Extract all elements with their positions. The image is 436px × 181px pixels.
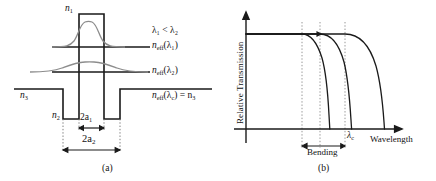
label-neff-lambdac: neff(λc) = n3 [152,91,195,101]
panel-b-transmission-spectrum: Relative Transmission Wavelength λc Bend… [218,0,436,181]
caption-panel-a: (a) [102,163,113,173]
label-cutoff-wavelength: λc [347,131,354,141]
x-axis-arrowhead [395,126,402,132]
axis-label-wavelength: Wavelength [370,135,413,144]
panel-a-index-profile: n1 n2 n3 λ₁ < λ₂ neff(λ₁) neff(λ₂) neff(… [0,0,218,181]
axis-label-relative-transmission: Relative Transmission [235,42,245,124]
y-axis-arrowhead [243,12,249,19]
label-neff-lambda1: neff(λ₁) [152,41,178,51]
dim-inner-arrow-right [100,126,104,131]
dim-inner-arrow-left [79,126,83,131]
label-bending: Bending [307,148,338,157]
mode-field-lambda1-curve [52,21,125,47]
label-dim-outer: 2a2 [82,134,95,145]
transmission-curve-1 [246,34,330,129]
figure-container: n1 n2 n3 λ₁ < λ₂ neff(λ₁) neff(λ₂) neff(… [0,0,436,181]
dim-outer-arrow-right [115,148,120,153]
label-neff-lambda2: neff(λ₂) [152,66,178,76]
mode-field-lambda2-curve [30,62,148,72]
label-n1: n1 [65,4,73,14]
label-n3: n3 [20,91,28,101]
transmission-curve-3 [246,34,385,129]
transmission-curve-2 [246,34,352,129]
label-n2: n2 [52,111,60,121]
label-dim-inner: 2a1 [80,113,92,123]
bending-arrow-tail-head [341,144,345,148]
dim-outer-arrow-left [63,148,68,153]
label-wavelength-relation: λ₁ < λ₂ [152,26,178,36]
caption-panel-b: (b) [318,163,329,173]
